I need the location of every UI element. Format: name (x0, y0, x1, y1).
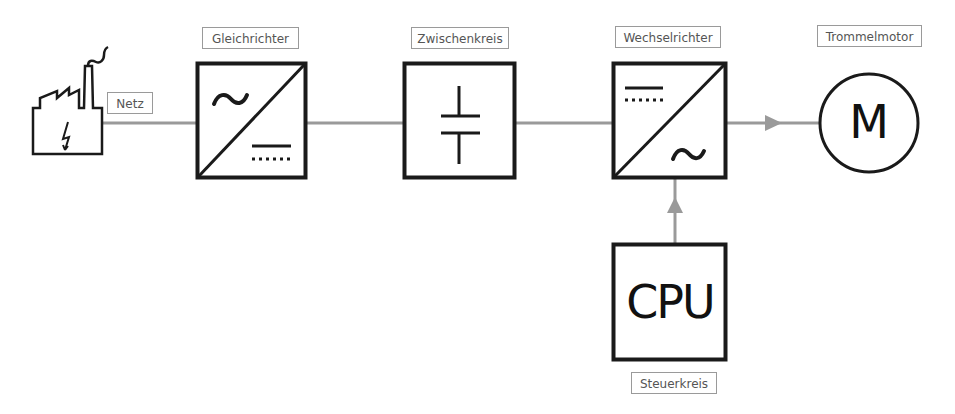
zwischenkreis-block (405, 64, 515, 178)
label-steuerkreis: Steuerkreis (631, 372, 717, 394)
label-netz: Netz (107, 92, 153, 114)
gleichrichter-block (198, 64, 306, 178)
wechselrichter-block (614, 64, 726, 178)
factory-power-icon (33, 47, 108, 154)
label-zwischenkreis: Zwischenkreis (411, 27, 509, 49)
label-trommelmotor: Trommelmotor (817, 25, 922, 47)
arrow-up-icon (667, 197, 683, 213)
label-wechselrichter: Wechselrichter (615, 26, 721, 48)
arrow-right-icon (765, 115, 782, 131)
label-gleichrichter: Gleichrichter (202, 27, 299, 49)
cpu-symbol-text: CPU (613, 272, 727, 332)
motor-symbol-text: M (820, 93, 918, 151)
